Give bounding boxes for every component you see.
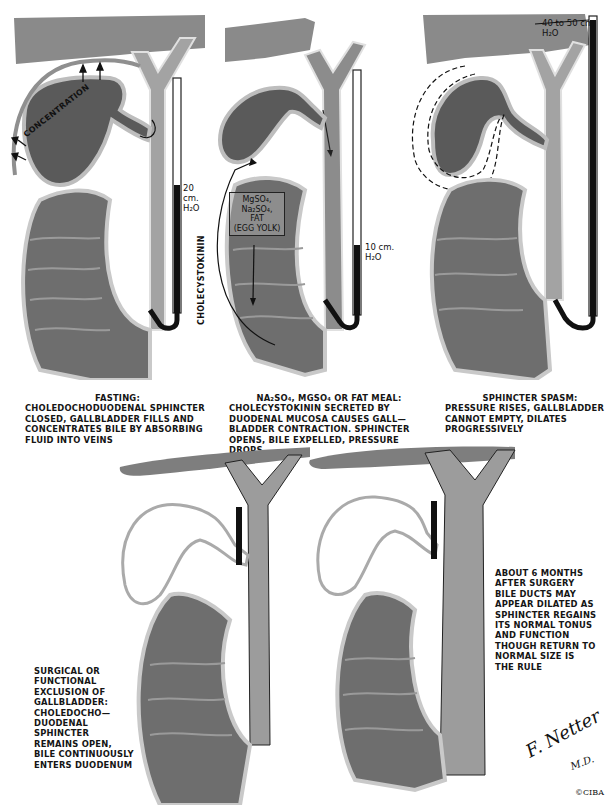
signature-suffix: M.D. [569,753,596,772]
artist-signature: F. Netter M.D. ©CIBA [520,735,610,805]
post-surgery-caption: ABOUT 6 MONTHS AFTER SURGERY BILE DUCTS … [495,568,610,672]
surgical-exclusion-caption: SURGICAL OR FUNCTIONAL EXCLUSION OF GALL… [34,666,154,770]
hepatic-duct [530,42,585,300]
panel-surgical-exclusion: SURGICAL OR FUNCTIONAL EXCLUSION OF GALL… [0,445,310,805]
liver [225,18,315,62]
panel-fat-meal: MgSO₄, Na₂SO₄, FAT (EGG YOLK) CHOLECYSTO… [205,0,405,450]
sphincter-spasm-illustration [405,0,610,380]
fasting-gauge-label: 20 cm. H₂O [183,183,205,213]
duodenum [23,191,150,380]
gallbladder [433,78,547,175]
gallbladder [24,77,150,185]
gallbladder-outline [123,505,248,604]
cholecystokinin-label: CHOLECYSTOKININ [197,235,206,325]
gallbladder [220,88,325,162]
fasting-illustration [0,0,205,380]
spasm-caption: SPHINCTER SPASM: PRESSURE RISES, GALLBLA… [445,393,610,435]
gallbladder-outline [318,497,437,595]
common-bile-duct [225,455,302,745]
fasting-caption: FASTING: CHOLEDOCHODUODENAL SPHINCTER CL… [25,393,210,445]
panel-fasting: CONCENTRATION 20 cm. H₂O FASTING: CHOLED… [0,0,205,450]
sphincter-bar [236,507,242,565]
spasm-gauge-label: 40 to 50 cm. H₂O [542,18,596,38]
fat-meal-illustration [205,0,405,380]
fat-meal-gauge-label: 10 cm. H₂O [365,242,394,262]
duodenum [337,593,445,790]
stimulus-box: MgSO₄, Na₂SO₄, FAT (EGG YOLK) [229,192,285,236]
sphincter-bar [431,501,437,559]
copyright-label: ©CIBA [575,788,604,797]
duodenum [432,180,550,380]
liver [309,447,515,469]
panel-sphincter-spasm: 40 to 50 cm. H₂O SPHINCTER SPASM: PRESSU… [405,0,610,450]
